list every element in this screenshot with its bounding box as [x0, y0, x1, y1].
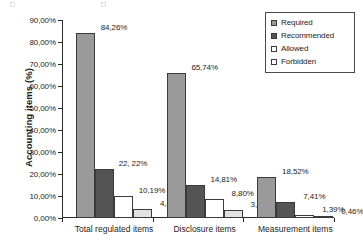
bar[interactable]	[276, 202, 295, 218]
bar[interactable]	[295, 215, 314, 218]
y-axis-tick-label: 40,00%	[29, 126, 56, 135]
bar-value-label: 22, 22%	[119, 159, 148, 168]
y-axis-tick	[58, 152, 62, 153]
bar-chart: Accounting items (%) 0,00%10,00%20,00%30…	[0, 0, 363, 248]
x-axis-category-label: Disclosure items	[173, 224, 235, 234]
y-axis-tick	[58, 64, 62, 65]
bar[interactable]	[224, 210, 243, 218]
y-axis-tick-label: 70,00%	[29, 60, 56, 69]
bar-value-label: 65,74%	[191, 63, 218, 72]
legend-swatch-icon	[271, 33, 277, 39]
x-axis-tick	[153, 218, 154, 222]
y-axis-tick-label: 0,00%	[34, 214, 56, 223]
bar-value-label: 7,41%	[303, 192, 325, 201]
x-axis-category-label: Total regulated items	[75, 224, 153, 234]
bar-value-label: 18,52%	[282, 167, 309, 176]
y-axis-tick	[58, 86, 62, 87]
legend-item-label: Required	[281, 19, 313, 27]
bar[interactable]	[76, 33, 95, 218]
legend-item-required[interactable]: Required	[271, 17, 349, 29]
y-axis-tick-label: 60,00%	[29, 82, 56, 91]
bar[interactable]	[314, 216, 333, 218]
legend-item-allowed[interactable]: Allowed	[271, 43, 349, 55]
bar-value-label: 84,26%	[101, 23, 128, 32]
legend-item-label: Recommended	[281, 32, 334, 40]
legend-item-label: Allowed	[281, 45, 308, 53]
x-axis-tick	[62, 218, 63, 222]
y-axis-tick-label: 80,00%	[29, 38, 56, 47]
scan-artifact-icon	[10, 2, 15, 7]
x-axis-tick	[243, 218, 244, 222]
legend-swatch-icon	[271, 46, 277, 52]
legend-swatch-icon	[271, 20, 277, 26]
y-axis-tick-label: 50,00%	[29, 104, 56, 113]
bar-value-label: 14,81%	[210, 175, 237, 184]
bar[interactable]	[133, 209, 152, 218]
x-axis-tick	[334, 218, 335, 222]
bar-value-label: 8,80%	[232, 189, 254, 198]
legend-item-label: Forbidden	[281, 58, 316, 66]
y-axis-tick	[58, 130, 62, 131]
bar[interactable]	[114, 196, 133, 218]
y-axis-tick-label: 20,00%	[29, 170, 56, 179]
legend-swatch-icon	[271, 59, 277, 65]
bar[interactable]	[257, 177, 276, 218]
legend-item-recommended[interactable]: Recommended	[271, 30, 349, 42]
bar-group: 65,74%14,81%8,80%3,70%	[167, 20, 243, 218]
bar[interactable]	[205, 199, 224, 218]
bar-value-label: 0,46%	[341, 207, 363, 216]
chart-legend: RequiredRecommendedAllowedForbidden	[265, 12, 355, 73]
bar[interactable]	[186, 185, 205, 218]
y-axis-tick-label: 10,00%	[29, 192, 56, 201]
y-axis-tick-label: 30,00%	[29, 148, 56, 157]
y-axis-tick	[58, 108, 62, 109]
bar-value-label: 10,19%	[139, 186, 166, 195]
y-axis-line	[62, 20, 63, 218]
y-axis-tick	[58, 42, 62, 43]
legend-item-forbidden[interactable]: Forbidden	[271, 56, 349, 68]
bar[interactable]	[167, 73, 186, 218]
scan-artifact-icon	[101, 2, 106, 7]
y-axis-tick	[58, 174, 62, 175]
y-axis-tick-label: 90,00%	[29, 16, 56, 25]
y-axis-tick	[58, 196, 62, 197]
y-axis-tick	[58, 20, 62, 21]
x-axis-category-label: Measurement items	[258, 224, 333, 234]
bar-group: 84,26%22, 22%10,19%4,17%	[76, 20, 152, 218]
bar[interactable]	[95, 169, 114, 218]
